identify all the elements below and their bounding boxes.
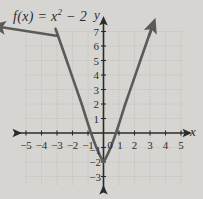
y-tick-label: −3	[86, 171, 101, 182]
x-tick-label: 2	[132, 140, 138, 151]
x-tick-label: −5	[20, 140, 32, 151]
curve-arrow-right	[149, 27, 152, 36]
x-axis-label: x	[190, 125, 196, 138]
coordinate-plane	[0, 0, 203, 199]
x-tick-label: −4	[36, 140, 48, 151]
curve-arrow-left	[0, 27, 58, 36]
x-tick-label: −2	[67, 140, 79, 151]
graph-figure: f(x) = x2 − 2 y x −5 −4 −3 −2 −1 0 1 2 3…	[0, 0, 203, 199]
x-tick-label: −3	[51, 140, 63, 151]
x-tick-label: 0	[107, 140, 113, 151]
y-tick-label: 7	[86, 26, 99, 37]
y-tick-label: −2	[88, 157, 101, 168]
equation-base: f(x) = x	[13, 9, 58, 24]
y-tick-label: 4	[86, 70, 99, 81]
y-tick-label: 6	[86, 41, 99, 52]
y-tick-label: −1	[88, 145, 101, 156]
x-tick-label: 4	[163, 140, 169, 151]
y-tick-label: 2	[86, 99, 99, 110]
function-equation-label: f(x) = x2 − 2	[13, 8, 87, 24]
y-tick-label: 5	[86, 55, 99, 66]
y-axis-label: y	[94, 8, 100, 21]
y-tick-label: 3	[86, 84, 99, 95]
x-tick-label: 1	[117, 140, 123, 151]
x-tick-label: 5	[178, 140, 184, 151]
y-tick-label: 1	[86, 113, 99, 124]
equation-tail: − 2	[62, 9, 87, 24]
x-tick-label: 3	[147, 140, 153, 151]
